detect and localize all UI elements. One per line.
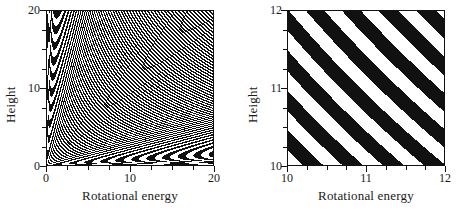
ytick-minor [42, 69, 46, 70]
ytick-major [40, 88, 46, 89]
ytick-minor [283, 147, 287, 148]
xtick-label-left-20: 20 [200, 171, 228, 186]
ytick-major [281, 10, 287, 11]
ytick-minor [42, 49, 46, 50]
ytick-label-left-20: 20 [10, 3, 40, 18]
xtick-major [46, 166, 47, 172]
ytick-minor [42, 127, 46, 128]
xtick-minor [406, 166, 407, 170]
xtick-label-left-10: 10 [116, 171, 144, 186]
ytick-minor [283, 127, 287, 128]
plot-panel-right: 12 11 10 10 11 12 Rotational energy Heig… [232, 0, 465, 212]
yaxis-label-right: Height [245, 53, 261, 123]
ytick-minor [283, 49, 287, 50]
ytick-minor [283, 30, 287, 31]
ytick-major [40, 10, 46, 11]
xtick-minor [88, 166, 89, 170]
xtick-minor [425, 166, 426, 170]
ytick-major [281, 88, 287, 89]
xtick-minor [327, 166, 328, 170]
xtick-label-right-11: 11 [352, 171, 380, 186]
xtick-major [366, 166, 367, 172]
plot-panel-left: 20 10 0 0 10 20 Rotational energy Height [0, 0, 232, 212]
xtick-minor [172, 166, 173, 170]
xtick-label-right-10: 10 [273, 171, 301, 186]
ytick-minor [283, 69, 287, 70]
xaxis-label-right: Rotational energy [287, 188, 445, 204]
xtick-label-right-12: 12 [431, 171, 459, 186]
plot-area-right [287, 10, 445, 166]
fringe-plot-right [288, 11, 444, 165]
ytick-minor [42, 30, 46, 31]
xtick-minor [307, 166, 308, 170]
xtick-major [214, 166, 215, 172]
xtick-major [130, 166, 131, 172]
yaxis-label-left: Height [3, 53, 19, 123]
xtick-minor [151, 166, 152, 170]
xaxis-label-left: Rotational energy [46, 188, 214, 204]
ytick-label-right-12: 12 [250, 3, 282, 18]
xtick-major [445, 166, 446, 172]
fringe-plot-left [47, 11, 213, 165]
xtick-minor [67, 166, 68, 170]
ytick-minor [42, 147, 46, 148]
xtick-label-left-0: 0 [32, 171, 60, 186]
xtick-minor [386, 166, 387, 170]
plot-area-left [46, 10, 214, 166]
xtick-minor [346, 166, 347, 170]
xtick-minor [193, 166, 194, 170]
ytick-minor [42, 108, 46, 109]
ytick-minor [283, 108, 287, 109]
xtick-major [287, 166, 288, 172]
xtick-minor [109, 166, 110, 170]
